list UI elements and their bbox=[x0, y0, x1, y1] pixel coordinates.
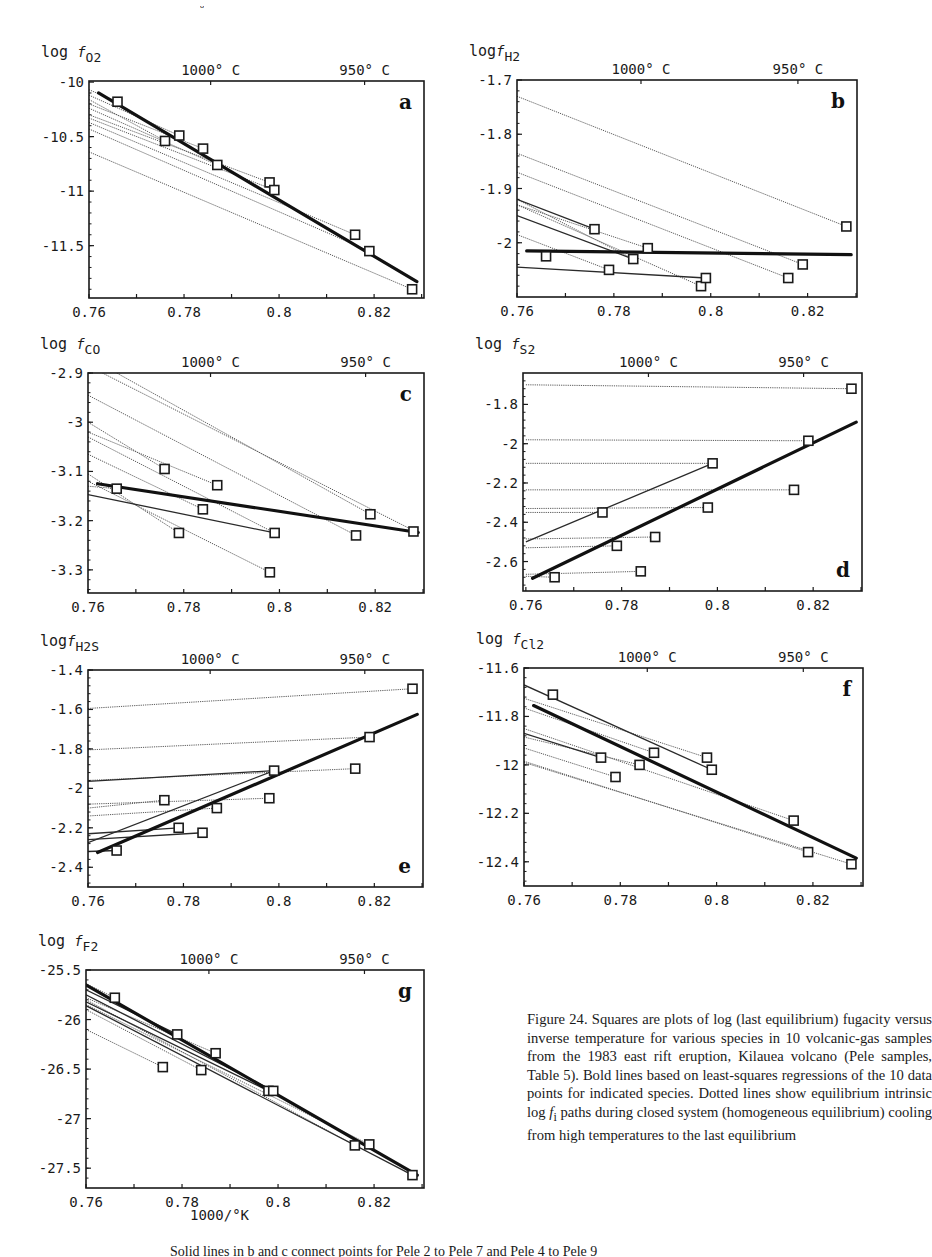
data-point-square bbox=[365, 1140, 374, 1149]
y-tick-label: -26 bbox=[56, 1012, 81, 1028]
y-tick-label: -27 bbox=[56, 1111, 81, 1127]
panel-letter-g: g bbox=[398, 979, 412, 1003]
data-point-square bbox=[269, 1086, 278, 1095]
dotted-path-line bbox=[86, 998, 216, 1053]
data-point-square bbox=[110, 993, 119, 1002]
data-point-square bbox=[173, 1030, 182, 1039]
x-tick-label: 0.82 bbox=[357, 1194, 391, 1210]
temperature-label: 1000° C bbox=[179, 951, 238, 967]
x-tick-label: 0.8 bbox=[265, 1194, 290, 1210]
y-tick-label: -25.5 bbox=[39, 962, 81, 978]
species-subscript: F2 bbox=[83, 939, 99, 954]
data-point-square bbox=[211, 1049, 220, 1058]
fugacity-symbol: f bbox=[74, 933, 82, 949]
dotted-path-line bbox=[86, 1029, 163, 1067]
caption-text-end: paths during closed system (homogeneous … bbox=[527, 1104, 932, 1144]
y-axis-label-g: log fF2 bbox=[38, 932, 98, 954]
data-point-square bbox=[158, 1063, 167, 1072]
x-axis-title: 1000/°K bbox=[190, 1207, 249, 1223]
x-tick-label: 0.76 bbox=[69, 1194, 103, 1210]
cut-off-text-line: Solid lines in b and c connect points fo… bbox=[170, 1244, 640, 1257]
y-tick-label: -26.5 bbox=[39, 1061, 81, 1077]
data-point-square bbox=[350, 1141, 359, 1150]
solid-connector-line bbox=[86, 1006, 412, 1175]
data-point-square bbox=[197, 1066, 206, 1075]
solid-connector-line bbox=[86, 1002, 268, 1091]
y-tick-label: -27.5 bbox=[39, 1160, 81, 1176]
temperature-label: 950° C bbox=[339, 951, 390, 967]
data-point-square bbox=[408, 1171, 417, 1180]
figure-caption: Figure 24. Squares are plots of log (las… bbox=[527, 1010, 932, 1145]
y-axis-label-prefix: log bbox=[38, 932, 74, 950]
